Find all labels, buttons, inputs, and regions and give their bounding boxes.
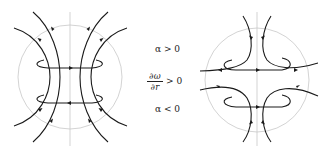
alpha-positive-label: α > 0 [155, 44, 180, 54]
domega-dr-fraction: ∂ω ∂r [147, 71, 163, 92]
left-diagram [14, 12, 127, 146]
left-field-line-outer-left [14, 28, 50, 126]
arrow-icon [69, 66, 73, 70]
domega-relation: > 0 [166, 76, 182, 86]
arrow-icon [67, 101, 71, 105]
arrow-icon [38, 38, 42, 42]
arrow-icon [100, 38, 104, 42]
domega-numerator: ∂ω [147, 71, 163, 81]
domega-denominator: ∂r [147, 82, 163, 92]
arrow-icon [294, 68, 298, 72]
arrow-icon [256, 105, 260, 109]
arrow-icon [256, 68, 260, 72]
left-field-line-inner-right [80, 12, 108, 142]
right-field-line-top-right [263, 16, 318, 68]
field-diagram-canvas [0, 0, 330, 154]
right-diagram [200, 12, 318, 146]
arrow-icon [218, 68, 222, 72]
left-field-line-inner-left [33, 12, 60, 142]
arrow-icon [296, 85, 300, 88]
right-field-line-bottom-right [263, 89, 318, 142]
arrow-icon [87, 27, 91, 32]
alpha-negative-label: α < 0 [155, 104, 180, 114]
